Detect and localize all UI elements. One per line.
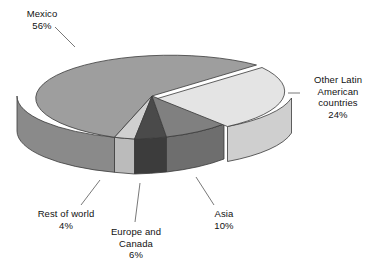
slice-label-mexico: Mexico 56% [12,8,72,31]
slice-side-rest-of-world [115,137,135,174]
pie-chart-figure: Mexico 56% Other Latin American countrie… [0,0,377,268]
leader-line-europe-canada [135,183,140,222]
slice-label-asia: Asia 10% [203,208,245,231]
slice-side-europe-canada [135,137,167,174]
leader-line-asia [196,177,214,205]
slice-label-europe-and-canada: Europe and Canada 6% [98,226,174,261]
slice-label-other-latin-american-countries: Other Latin American countries 24% [302,74,374,120]
slice-label-rest-of-world: Rest of world 4% [26,208,106,231]
leader-line-rest-of-world [81,180,100,205]
